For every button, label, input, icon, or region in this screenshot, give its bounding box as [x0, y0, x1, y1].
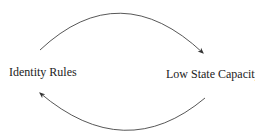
node-low-state-capacity: Low State Capacity — [166, 67, 255, 82]
node-identity-rules: Identity Rules — [9, 65, 77, 80]
arrow-capacity-to-identity — [40, 93, 205, 130]
arrow-identity-to-capacity — [40, 13, 203, 53]
